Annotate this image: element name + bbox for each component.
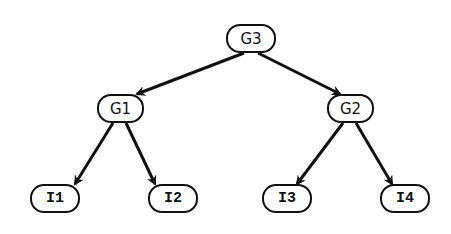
node-label: I1 — [46, 190, 64, 207]
edge-g3-g1 — [137, 53, 244, 94]
node-label: G1 — [110, 100, 131, 118]
node-label: I4 — [396, 190, 414, 207]
node-i4: I4 — [380, 184, 430, 213]
edge-g1-i1 — [75, 123, 113, 184]
edge-g1-i2 — [126, 123, 155, 184]
node-label: G3 — [240, 30, 261, 48]
node-i3: I3 — [262, 184, 312, 213]
edge-g3-g2 — [258, 53, 340, 94]
node-i1: I1 — [30, 184, 80, 213]
node-label: G2 — [340, 100, 361, 118]
node-label: I2 — [164, 190, 182, 207]
node-g1: G1 — [97, 94, 144, 123]
edge-g2-i3 — [297, 123, 343, 184]
node-g3: G3 — [226, 24, 276, 53]
node-g2: G2 — [327, 94, 374, 123]
node-i2: I2 — [148, 184, 198, 213]
edge-g2-i4 — [356, 123, 392, 184]
tree-diagram: G3 G1 G2 I1 I2 I3 I4 — [0, 0, 451, 234]
node-label: I3 — [278, 190, 296, 207]
